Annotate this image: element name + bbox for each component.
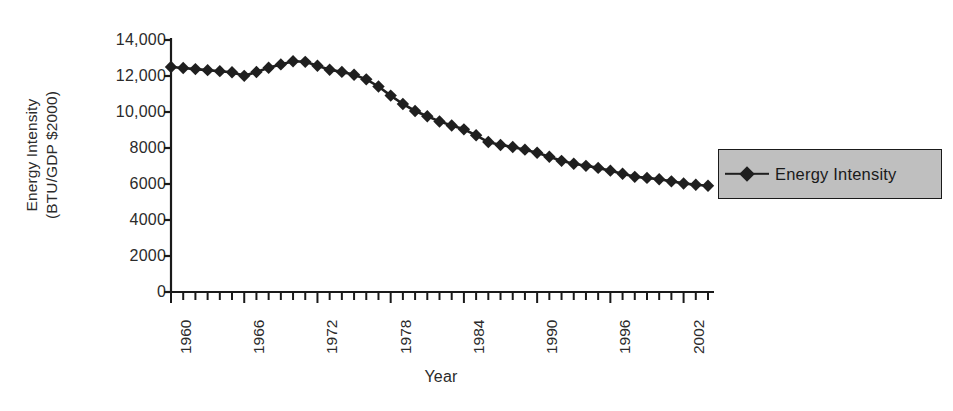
data-point-marker (262, 62, 274, 74)
data-point-marker (507, 141, 519, 153)
data-point-marker (238, 70, 250, 82)
data-point-marker (690, 179, 702, 191)
data-point-marker (409, 105, 421, 117)
data-point-marker (446, 119, 458, 131)
data-point-marker (641, 172, 653, 184)
data-point-marker (348, 68, 360, 80)
data-point-marker (458, 123, 470, 135)
data-point-marker (629, 171, 641, 183)
plot-area (0, 0, 953, 411)
data-point-marker (275, 58, 287, 70)
data-point-marker (165, 61, 177, 73)
data-point-marker (665, 175, 677, 187)
data-point-marker (494, 139, 506, 151)
data-point-marker (555, 155, 567, 167)
data-point-marker (226, 66, 238, 78)
data-point-marker (189, 63, 201, 75)
data-point-marker (311, 60, 323, 72)
data-point-marker (470, 129, 482, 141)
data-point-marker (214, 65, 226, 77)
legend-marker-icon (719, 159, 775, 189)
data-point-marker (677, 177, 689, 189)
data-point-marker (299, 56, 311, 68)
data-point-marker (592, 162, 604, 174)
chart-figure: Energy Intensity (BTU/GDP $2000) 14,0001… (0, 0, 953, 411)
data-point-marker (604, 164, 616, 176)
data-point-marker (323, 64, 335, 76)
data-point-marker (360, 73, 372, 85)
chart-legend: Energy Intensity (718, 149, 942, 199)
data-point-marker (336, 66, 348, 78)
x-axis-title: Year (171, 368, 711, 386)
data-point-marker (580, 160, 592, 172)
data-point-marker (653, 173, 665, 185)
data-point-marker (543, 151, 555, 163)
data-point-marker (482, 136, 494, 148)
data-point-marker (201, 64, 213, 76)
legend-label: Energy Intensity (775, 165, 897, 184)
data-point-marker (421, 110, 433, 122)
data-point-marker (616, 168, 628, 180)
data-point-marker (287, 55, 299, 67)
data-point-marker (531, 147, 543, 159)
data-point-marker (568, 158, 580, 170)
data-point-marker (702, 180, 714, 192)
data-point-marker (250, 66, 262, 78)
data-point-marker (519, 143, 531, 155)
data-point-marker (433, 115, 445, 127)
data-point-marker (177, 62, 189, 74)
